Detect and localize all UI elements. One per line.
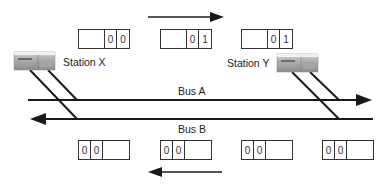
station-y-label: Station Y <box>227 57 269 69</box>
slot-bit: 0 <box>117 30 129 48</box>
flow-arrow-right-icon <box>148 12 224 22</box>
slot-payload <box>185 141 211 159</box>
slot-bit: 0 <box>91 141 103 159</box>
slot-bit: 0 <box>187 30 199 48</box>
slot-payload <box>266 141 292 159</box>
slot-bit: 1 <box>280 30 292 48</box>
bus-a-slot: 0 1 <box>160 29 212 49</box>
station-x-taps <box>30 70 77 119</box>
slot-bit: 0 <box>254 141 266 159</box>
station-y-taps <box>292 72 339 119</box>
slot-bit: 0 <box>161 141 173 159</box>
slot-bit: 0 <box>335 141 347 159</box>
slot-payload <box>79 30 105 48</box>
slot-bit: 0 <box>173 141 185 159</box>
bus-b-slot: 0 0 <box>241 140 293 160</box>
station-y-computer-icon <box>277 54 318 72</box>
bus-a-label: Bus A <box>178 85 205 97</box>
slot-payload <box>347 141 373 159</box>
bus-b-slot: 0 0 <box>160 140 212 160</box>
station-x-label: Station X <box>63 56 106 68</box>
slot-bit: 0 <box>105 30 117 48</box>
flow-arrow-left-icon <box>148 167 222 177</box>
slot-bit: 0 <box>79 141 91 159</box>
bus-b-slot: 0 0 <box>78 140 130 160</box>
station-x-computer-icon <box>14 52 55 70</box>
bus-a-slot: 0 1 <box>241 29 293 49</box>
bus-a-slot: 0 0 <box>78 29 130 49</box>
slot-bit: 0 <box>242 141 254 159</box>
bus-b-slot: 0 0 <box>322 140 374 160</box>
slot-bit: 0 <box>268 30 280 48</box>
slot-bit: 1 <box>199 30 211 48</box>
slot-bit: 0 <box>323 141 335 159</box>
bus-b-label: Bus B <box>178 123 206 135</box>
slot-payload <box>242 30 268 48</box>
slot-payload <box>103 141 129 159</box>
slot-payload <box>161 30 187 48</box>
